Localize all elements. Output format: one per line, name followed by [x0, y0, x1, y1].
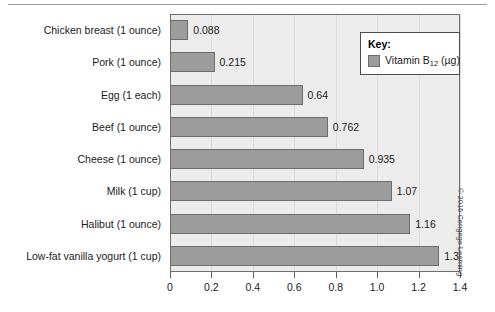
legend-entry-label: Vitamin B12 (µg): [385, 54, 460, 68]
bar-row: 0.935: [170, 149, 460, 169]
x-axis-tick: [419, 272, 420, 278]
bar: [170, 52, 215, 72]
bar-row: 0.762: [170, 117, 460, 137]
bar: [170, 149, 364, 169]
legend-box: Key: Vitamin B12 (µg): [360, 32, 460, 75]
category-label: Beef (1 ounce): [92, 121, 161, 133]
x-axis-tick: [253, 272, 254, 278]
legend-title: Key:: [368, 38, 453, 50]
bar: [170, 20, 188, 40]
legend-entry-suffix: (µg): [438, 54, 460, 66]
x-axis-tick: [170, 272, 171, 278]
bar-value-label: 0.088: [188, 24, 219, 36]
x-axis-tick-label: 1.4: [453, 281, 468, 293]
bar-value-label: 0.215: [215, 56, 246, 68]
bar: [170, 85, 303, 105]
x-axis-tick-label: 1.2: [411, 281, 426, 293]
bar-value-label: 1.16: [410, 218, 435, 230]
x-axis-tick: [336, 272, 337, 278]
x-axis-tick: [211, 272, 212, 278]
bar: [170, 246, 439, 266]
bar-value-label: 1.07: [392, 185, 417, 197]
vitamin-b12-bar-chart: Chicken breast (1 ounce)Pork (1 ounce)Eg…: [0, 0, 495, 312]
x-axis-tick-label: 0.4: [246, 281, 261, 293]
x-axis-tick: [294, 272, 295, 278]
x-axis-tick: [377, 272, 378, 278]
bar-row: 1.07: [170, 181, 460, 201]
x-axis-tick-label: 0.2: [204, 281, 219, 293]
bar-row: 0.64: [170, 85, 460, 105]
legend-entry-prefix: Vitamin B: [385, 54, 430, 66]
bar-row: 1.3: [170, 246, 460, 266]
bar: [170, 117, 328, 137]
category-label: Egg (1 each): [101, 89, 161, 101]
legend-entry-subscript: 12: [430, 59, 438, 68]
bar-value-label: 0.64: [303, 89, 328, 101]
category-label: Pork (1 ounce): [92, 56, 161, 68]
category-label: Milk (1 cup): [107, 185, 161, 197]
bar: [170, 181, 392, 201]
x-axis-tick-label: 0.6: [287, 281, 302, 293]
copyright-credit: © 2016 Cengage Learning: [456, 188, 465, 276]
x-axis-tick-label: 0.8: [328, 281, 343, 293]
top-divider-rule: [8, 4, 487, 5]
bar-value-label: 0.935: [364, 153, 395, 165]
legend-entry-vitamin-b12: Vitamin B12 (µg): [368, 54, 453, 68]
category-label: Cheese (1 ounce): [78, 153, 161, 165]
legend-swatch-icon: [368, 55, 380, 67]
category-label: Low-fat vanilla yogurt (1 cup): [26, 250, 161, 262]
category-label: Chicken breast (1 ounce): [44, 24, 161, 36]
x-axis-tick-label: 0: [167, 281, 173, 293]
bar-value-label: 0.762: [328, 121, 359, 133]
bar: [170, 214, 410, 234]
bar-row: 1.16: [170, 214, 460, 234]
x-axis-tick-label: 1.0: [370, 281, 385, 293]
category-label: Halibut (1 ounce): [81, 218, 161, 230]
